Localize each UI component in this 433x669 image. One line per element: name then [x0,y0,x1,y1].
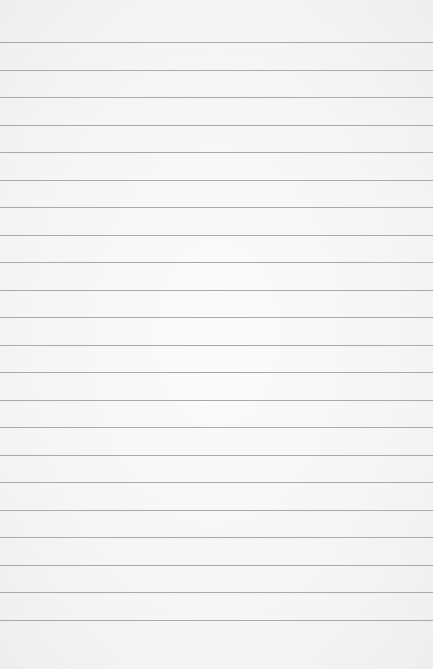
ruled-line [0,317,433,318]
ruled-line [0,125,433,126]
ruled-line [0,262,433,263]
ruled-line [0,455,433,456]
ruled-line [0,372,433,373]
ruled-line [0,180,433,181]
ruled-line [0,345,433,346]
ruled-line [0,70,433,71]
ruled-line [0,537,433,538]
ruled-line [0,97,433,98]
ruled-line [0,510,433,511]
ruled-line [0,290,433,291]
ruled-line [0,400,433,401]
ruled-line [0,620,433,621]
ruled-line [0,235,433,236]
ruled-line [0,592,433,593]
ruled-line [0,42,433,43]
lined-paper [0,0,433,669]
ruled-line [0,152,433,153]
ruled-line [0,207,433,208]
ruled-line [0,427,433,428]
ruled-line [0,482,433,483]
ruled-line [0,565,433,566]
